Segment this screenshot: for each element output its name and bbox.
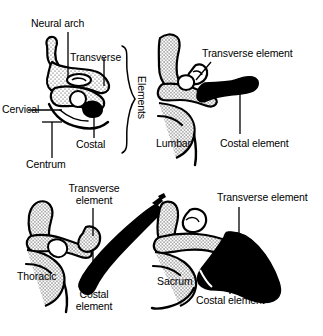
- label-sacrum-costal-element: Costal element: [196, 295, 265, 307]
- label-thoracic-costal-element-line1: Costal: [62, 289, 126, 301]
- label-thoracic-transverse-element-line2: element: [62, 195, 126, 207]
- label-elements: Elements: [136, 76, 148, 119]
- elements-bracket: [122, 46, 135, 153]
- label-cervical: Cervical: [2, 104, 39, 116]
- label-centrum: Centrum: [26, 159, 66, 171]
- sacrum-vertebra-drawing: [152, 202, 280, 309]
- label-thoracic-costal-element-line2: element: [62, 301, 126, 313]
- label-transverse: Transverse: [70, 52, 121, 64]
- label-lumbar-costal-element: Costal element: [220, 138, 289, 150]
- label-thoracic: Thoracic: [17, 271, 56, 283]
- label-sacrum-transverse-element: Transverse element: [217, 192, 308, 204]
- label-thoracic-transverse-element-line1: Transverse: [62, 183, 126, 195]
- anatomy-figure: Neural arch Transverse Cervical Costal C…: [0, 0, 323, 336]
- label-sacrum: Sacrum: [157, 276, 193, 288]
- label-neural-arch: Neural arch: [31, 18, 84, 30]
- label-costal: Costal: [76, 139, 105, 151]
- label-lumbar: Lumbar: [156, 138, 191, 150]
- label-lumbar-transverse-element: Transverse element: [202, 48, 293, 60]
